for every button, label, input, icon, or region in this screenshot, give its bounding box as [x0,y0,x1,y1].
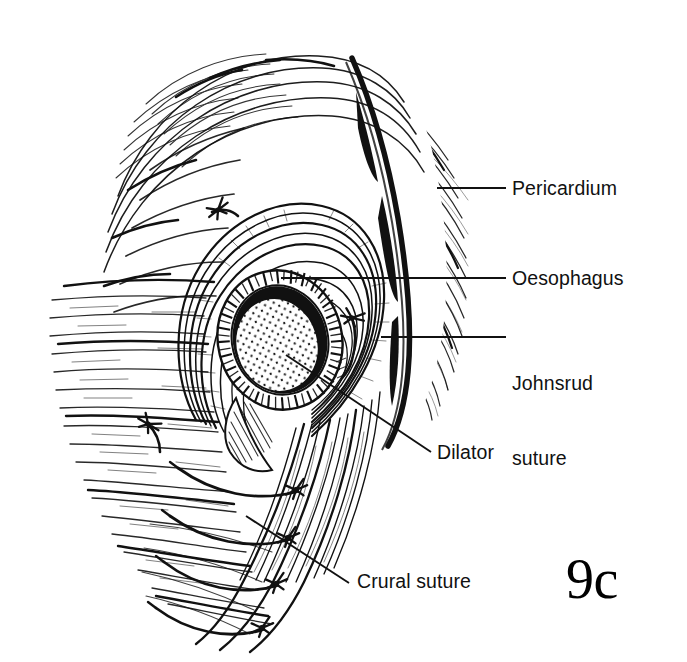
label-oesophagus: Oesophagus [512,266,624,291]
label-johnsrud-line2: suture [512,446,593,471]
label-johnsrud-line1: Johnsrud [512,371,593,396]
label-johnsrud-suture: Johnsrud suture [512,321,593,521]
label-dilator: Dilator [437,440,494,465]
figure-panel: Pericardium Oesophagus Johnsrud suture D… [0,0,687,662]
label-crural-suture: Crural suture [357,569,471,594]
figure-number: 9c [566,551,618,607]
label-pericardium: Pericardium [512,176,617,201]
